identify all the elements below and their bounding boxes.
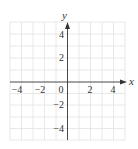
x-tick-label: 2 bbox=[88, 84, 93, 95]
y-axis-arrow-icon bbox=[65, 22, 70, 29]
coordinate-grid: x y −4 −2 0 2 4 4 2 −2 −4 bbox=[0, 0, 138, 149]
y-tick-label: 4 bbox=[59, 29, 64, 40]
x-axis-label: x bbox=[128, 75, 134, 87]
x-tick-label: 4 bbox=[111, 84, 116, 95]
x-tick-label: −4 bbox=[12, 84, 23, 95]
x-tick-label: −2 bbox=[35, 84, 46, 95]
y-axis bbox=[65, 22, 70, 140]
x-axis-arrow-icon bbox=[120, 80, 127, 85]
x-axis bbox=[10, 80, 127, 85]
y-axis-label: y bbox=[61, 9, 67, 21]
y-tick-label: −4 bbox=[53, 123, 64, 134]
x-tick-label: 0 bbox=[59, 84, 64, 95]
y-tick-label: 2 bbox=[59, 52, 64, 63]
y-tick-label: −2 bbox=[53, 99, 64, 110]
